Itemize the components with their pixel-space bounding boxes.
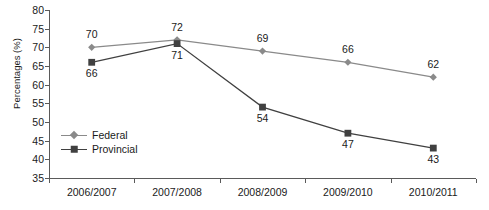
series-lines [0,0,489,210]
provincial-value-label: 43 [418,154,448,165]
data-point-provincial [174,40,181,47]
data-point-provincial [430,145,437,152]
legend-item-federal[interactable]: Federal [61,128,138,142]
data-point-federal [344,59,351,66]
federal-marker-icon [61,129,87,141]
data-point-federal [88,44,95,51]
legend-item-provincial[interactable]: Provincial [61,142,138,156]
data-point-federal [430,74,437,81]
line-chart: Percentages (%) 35404550556065707580 200… [0,0,489,210]
provincial-value-label: 71 [162,50,192,61]
legend-label-provincial: Provincial [92,143,138,155]
provincial-value-label: 47 [333,139,363,150]
data-point-federal [259,47,266,54]
series-line-provincial [92,44,434,149]
provincial-value-label: 54 [248,113,278,124]
federal-value-label: 69 [248,33,278,44]
data-point-provincial [88,59,95,66]
federal-value-label: 70 [77,29,107,40]
federal-value-label: 66 [333,44,363,55]
provincial-marker-icon [61,143,87,155]
series-line-federal [92,40,434,77]
chart-legend: Federal Provincial [61,128,138,156]
federal-value-label: 72 [162,22,192,33]
provincial-value-label: 66 [77,68,107,79]
legend-label-federal: Federal [92,129,128,141]
data-point-provincial [259,104,266,111]
federal-value-label: 62 [418,59,448,70]
data-point-provincial [345,130,352,137]
